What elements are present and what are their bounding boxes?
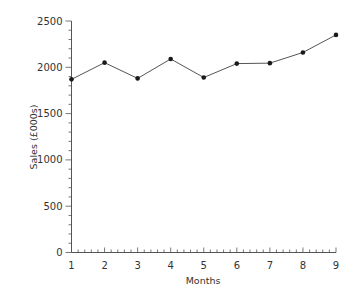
data-point-marker xyxy=(102,60,107,65)
data-point-marker xyxy=(268,61,273,66)
data-point-marker xyxy=(301,50,306,55)
data-point-marker xyxy=(135,76,140,81)
line-chart: 05001000150020002500 123456789 Months Sa… xyxy=(0,0,356,299)
y-tick-label: 0 xyxy=(56,247,62,258)
y-tick-label: 1500 xyxy=(37,108,62,119)
x-tick-label: 4 xyxy=(168,260,174,271)
data-series xyxy=(69,33,338,82)
y-tick-label: 2500 xyxy=(37,16,62,27)
x-tick-label: 3 xyxy=(134,260,140,271)
data-point-marker xyxy=(201,75,206,80)
y-tick-label: 500 xyxy=(43,201,62,212)
x-tick-label: 5 xyxy=(201,260,207,271)
x-axis-title: Months xyxy=(186,275,221,286)
series-line xyxy=(72,35,337,79)
x-tick-label: 6 xyxy=(234,260,240,271)
data-point-marker xyxy=(334,33,339,38)
data-point-marker xyxy=(168,57,173,62)
x-tick-label: 9 xyxy=(333,260,339,271)
y-tick-label: 2000 xyxy=(37,62,62,73)
y-axis-title: Sales (£000s) xyxy=(28,105,39,170)
x-tick-label: 1 xyxy=(68,260,74,271)
x-tick-label: 8 xyxy=(300,260,306,271)
data-point-marker xyxy=(235,61,240,66)
data-point-marker xyxy=(69,77,74,82)
x-tick-label: 2 xyxy=(101,260,107,271)
x-axis: 123456789 xyxy=(68,248,339,271)
x-tick-label: 7 xyxy=(267,260,273,271)
y-axis: 05001000150020002500 xyxy=(37,16,71,259)
y-tick-label: 1000 xyxy=(37,154,62,165)
